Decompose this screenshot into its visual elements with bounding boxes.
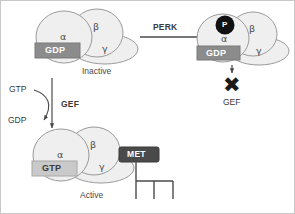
g-protein-signaling-diagram: α β γ GDP Inactive PERK P α β γ GDP ✖ GE… xyxy=(0,0,295,214)
diagram-canvas xyxy=(1,1,295,214)
phosphorylated-complex-shapes xyxy=(197,12,289,65)
blocked-gef-x-icon: ✖ xyxy=(223,75,241,96)
phosphate-circle-icon xyxy=(216,16,235,35)
gtp-in-gdp-out-curve xyxy=(34,90,49,120)
met-box xyxy=(119,147,159,162)
gdp-box-phospho xyxy=(197,46,240,60)
gdp-box-inactive xyxy=(35,43,80,58)
gef-exchange-arrows xyxy=(34,78,52,128)
gtp-box-active xyxy=(32,161,77,176)
inactive-complex-shapes xyxy=(35,9,138,64)
